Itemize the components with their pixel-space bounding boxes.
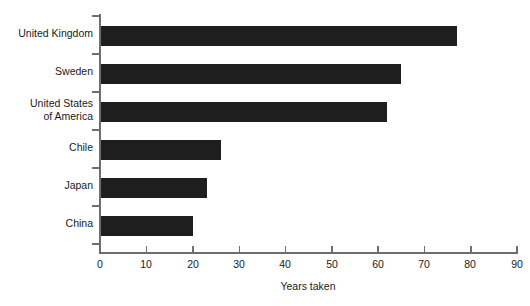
y-axis-line — [99, 14, 101, 252]
y-axis-tick — [92, 167, 100, 169]
x-axis-tick-label: 0 — [80, 258, 120, 270]
x-axis-tick — [146, 246, 148, 253]
x-axis-title: Years taken — [0, 280, 530, 292]
x-axis-tick — [377, 246, 379, 253]
category-label: United States of America — [0, 97, 93, 122]
x-axis-title-text: Years taken — [280, 280, 335, 292]
x-axis-tick-label: 70 — [404, 258, 444, 270]
y-axis-tick — [92, 53, 100, 55]
bar-chart: United Kingdom Sweden United States of A… — [0, 0, 530, 306]
x-axis-tick-label: 50 — [312, 258, 352, 270]
x-axis-line — [99, 252, 518, 254]
category-label: United Kingdom — [0, 27, 93, 40]
x-axis-tick — [331, 246, 333, 253]
x-axis-tick-label: 10 — [126, 258, 166, 270]
category-label: China — [0, 217, 93, 230]
bar-united-kingdom — [100, 26, 457, 46]
y-axis-tick — [92, 205, 100, 207]
x-axis-tick-label: 20 — [173, 258, 213, 270]
y-axis-tick — [92, 91, 100, 93]
x-axis-tick-label: 40 — [265, 258, 305, 270]
x-axis-tick — [516, 246, 518, 253]
x-axis-tick-label: 30 — [219, 258, 259, 270]
plot-area — [100, 14, 517, 252]
bar-japan — [100, 178, 207, 198]
x-axis-tick — [239, 246, 241, 253]
category-label: Sweden — [0, 65, 93, 78]
x-axis-tick — [100, 246, 102, 253]
x-axis-tick — [424, 246, 426, 253]
bar-united-states — [100, 102, 387, 122]
category-label: Japan — [0, 179, 93, 192]
category-label: Chile — [0, 141, 93, 154]
bar-china — [100, 216, 193, 236]
x-axis-tick — [470, 246, 472, 253]
x-axis-tick-label: 90 — [497, 258, 530, 270]
y-axis-tick — [92, 243, 100, 245]
bar-sweden — [100, 64, 401, 84]
y-axis-tick — [92, 15, 100, 17]
x-axis-tick-label: 60 — [358, 258, 398, 270]
y-axis-tick — [92, 129, 100, 131]
bar-chile — [100, 140, 221, 160]
x-axis-tick-label: 80 — [450, 258, 490, 270]
x-axis-tick — [192, 246, 194, 253]
x-axis-tick — [285, 246, 287, 253]
